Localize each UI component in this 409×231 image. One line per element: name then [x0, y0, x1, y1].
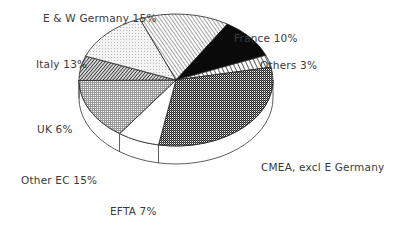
- label-france: France 10%: [234, 32, 298, 44]
- label-cmea: CMEA, excl E Germany: [261, 161, 384, 173]
- label-other-ec: Other EC 15%: [21, 174, 97, 186]
- pie-chart: E & W Germany 15% France 10% Others 3% C…: [0, 0, 409, 231]
- label-others: Others 3%: [260, 59, 317, 71]
- label-italy: Italy 13%: [36, 58, 87, 70]
- label-efta: EFTA 7%: [110, 205, 157, 217]
- label-e-w-germany: E & W Germany 15%: [43, 12, 157, 24]
- label-uk: UK 6%: [37, 123, 73, 135]
